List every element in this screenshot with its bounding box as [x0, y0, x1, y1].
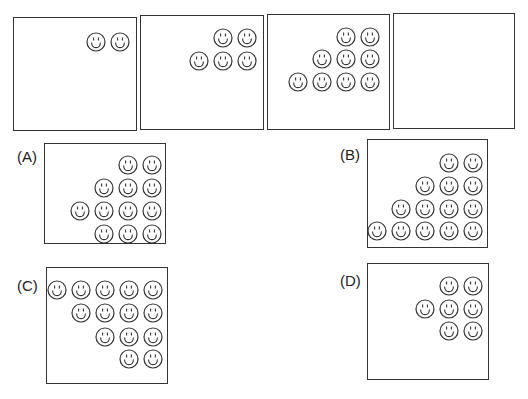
smiley-face-icon	[367, 221, 387, 241]
smiley-face-icon	[118, 201, 138, 221]
smiley-face-icon	[360, 27, 380, 47]
smiley-face-icon	[439, 221, 459, 241]
smiley-face-icon	[336, 72, 356, 92]
smiley-face-icon	[119, 327, 139, 347]
smiley-face-icon	[415, 176, 435, 196]
smiley-face-icon	[95, 280, 115, 300]
smiley-face-icon	[119, 349, 139, 369]
smiley-face-icon	[142, 178, 162, 198]
smiley-face-icon	[439, 276, 459, 296]
smiley-face-icon	[142, 201, 162, 221]
smiley-face-icon	[94, 178, 114, 198]
smiley-face-icon	[118, 155, 138, 175]
smiley-face-icon	[94, 201, 114, 221]
smiley-face-icon	[415, 221, 435, 241]
smiley-face-icon	[213, 28, 233, 48]
smiley-face-icon	[360, 49, 380, 69]
smiley-face-icon	[119, 280, 139, 300]
smiley-face-icon	[71, 280, 91, 300]
smiley-face-icon	[118, 178, 138, 198]
smiley-face-icon	[439, 299, 459, 319]
smiley-face-icon	[86, 32, 106, 52]
smiley-face-icon	[391, 221, 411, 241]
smiley-face-icon	[415, 199, 435, 219]
smiley-face-icon	[95, 327, 115, 347]
smiley-face-icon	[143, 303, 163, 323]
sequence-panel-4-missing	[393, 13, 515, 129]
smiley-face-icon	[463, 276, 483, 296]
smiley-face-icon	[118, 224, 138, 244]
smiley-face-icon	[119, 303, 139, 323]
smiley-face-icon	[360, 72, 380, 92]
smiley-face-icon	[237, 28, 257, 48]
smiley-face-icon	[143, 349, 163, 369]
smiley-face-icon	[213, 51, 233, 71]
smiley-face-icon	[70, 201, 90, 221]
smiley-face-icon	[110, 32, 130, 52]
smiley-face-icon	[47, 280, 67, 300]
smiley-face-icon	[288, 72, 308, 92]
smiley-face-icon	[94, 224, 114, 244]
smiley-face-icon	[463, 299, 483, 319]
smiley-face-icon	[439, 153, 459, 173]
smiley-face-icon	[312, 72, 332, 92]
smiley-face-icon	[391, 199, 411, 219]
option-c-label[interactable]: (C)	[17, 277, 38, 294]
smiley-face-icon	[142, 155, 162, 175]
smiley-face-icon	[463, 221, 483, 241]
smiley-face-icon	[463, 153, 483, 173]
smiley-face-icon	[463, 176, 483, 196]
smiley-face-icon	[439, 199, 459, 219]
smiley-face-icon	[415, 299, 435, 319]
smiley-face-icon	[439, 176, 459, 196]
smiley-face-icon	[143, 327, 163, 347]
smiley-face-icon	[463, 199, 483, 219]
smiley-face-icon	[143, 280, 163, 300]
smiley-face-icon	[336, 49, 356, 69]
smiley-face-icon	[237, 51, 257, 71]
smiley-face-icon	[336, 27, 356, 47]
smiley-face-icon	[312, 49, 332, 69]
smiley-face-icon	[71, 303, 91, 323]
smiley-face-icon	[142, 224, 162, 244]
option-b-label[interactable]: (B)	[340, 146, 360, 163]
smiley-face-icon	[95, 303, 115, 323]
option-a-label[interactable]: (A)	[17, 148, 37, 165]
smiley-face-icon	[463, 321, 483, 341]
option-d-label[interactable]: (D)	[340, 272, 361, 289]
smiley-face-icon	[189, 51, 209, 71]
smiley-face-icon	[439, 321, 459, 341]
